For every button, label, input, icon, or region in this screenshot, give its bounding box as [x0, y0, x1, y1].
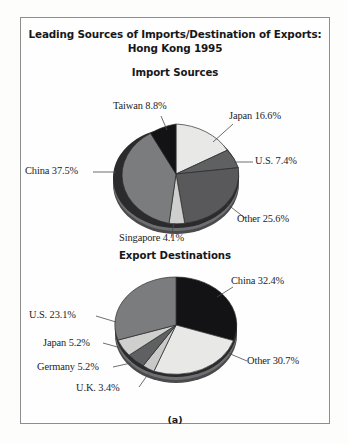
- leader-line-germany: [113, 363, 131, 367]
- label-china-2: China 32.4%: [231, 275, 284, 286]
- figure-caption: (a): [21, 414, 329, 425]
- label-us-2: U.S. 23.1%: [29, 309, 76, 320]
- label-singapore: Singapore 4.1%: [119, 232, 184, 243]
- figure-title: Leading Sources of Imports/Destination o…: [21, 28, 329, 55]
- label-other: Other 25.6%: [237, 213, 289, 224]
- label-us: U.S. 7.4%: [255, 155, 297, 166]
- label-japan-2: Japan 5.2%: [43, 337, 90, 348]
- label-japan: Japan 16.6%: [229, 110, 281, 121]
- figure-title-line-2: Hong Kong 1995: [128, 42, 223, 54]
- export-destinations-pie-chart: China 32.4% Other 30.7% U.K. 3.4% German…: [21, 263, 329, 413]
- import-sources-heading: Import Sources: [21, 67, 329, 78]
- leader-line-japan: [213, 124, 233, 142]
- label-germany: Germany 5.2%: [37, 361, 99, 372]
- label-uk: U.K. 3.4%: [76, 382, 120, 393]
- figure-frame: Leading Sources of Imports/Destination o…: [20, 17, 330, 424]
- figure-title-line-1: Leading Sources of Imports/Destination o…: [29, 28, 322, 40]
- leader-line-us-2: [96, 316, 116, 322]
- export-destinations-heading: Export Destinations: [21, 250, 329, 261]
- label-china: China 37.5%: [25, 165, 78, 176]
- leader-line-other-2: [228, 353, 247, 361]
- label-taiwan: Taiwan 8.8%: [113, 100, 167, 111]
- slice-other: [176, 168, 239, 224]
- import-sources-pie-chart: Taiwan 8.8% Japan 16.6% U.S. 7.4% Other …: [21, 82, 329, 244]
- label-other-2: Other 30.7%: [247, 355, 299, 366]
